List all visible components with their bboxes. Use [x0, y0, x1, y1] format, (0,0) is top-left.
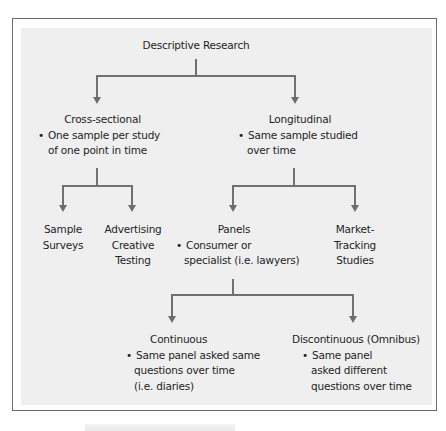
connector-to-continuous	[171, 294, 173, 316]
connector-to-sample-surveys	[62, 185, 64, 205]
node-descriptive-research: Descriptive Research	[136, 38, 256, 54]
connector-long-bar	[232, 185, 356, 187]
node-market-tracking-studies: Market- Tracking Studies	[325, 222, 385, 269]
node-longitudinal: Longitudinal Same sample studied over ti…	[238, 112, 368, 159]
connector-to-panels	[232, 185, 234, 205]
node-line: Market-	[325, 222, 385, 238]
node-bullet-cont: over time	[238, 143, 368, 159]
node-continuous: Continuous Same panel asked same questio…	[126, 332, 256, 394]
node-bullet-cont: of one point in time	[38, 143, 163, 159]
connector-to-discontinuous	[352, 294, 354, 316]
arrow-down-icon	[291, 97, 299, 104]
node-title: Discontinuous (Omnibus)	[292, 332, 432, 348]
node-bullet: One sample per study	[38, 128, 163, 144]
connector-root-bar	[96, 75, 296, 77]
arrow-down-icon	[93, 97, 101, 104]
connector-to-advertising	[131, 185, 133, 205]
node-bullet: Same panel	[292, 348, 432, 364]
node-bullet: Same panel asked same	[126, 348, 256, 364]
node-bullet-cont: asked different	[292, 363, 432, 379]
connector-to-longitudinal	[294, 75, 296, 97]
node-line: Surveys	[38, 238, 88, 254]
arrow-down-icon	[59, 205, 67, 212]
node-bullet: Same sample studied	[238, 128, 368, 144]
arrow-down-icon	[349, 316, 357, 323]
node-bullet-cont: (i.e. diaries)	[126, 379, 256, 395]
node-line: Studies	[325, 253, 385, 269]
node-title: Descriptive Research	[136, 38, 256, 54]
arrow-down-icon	[351, 205, 359, 212]
arrow-down-icon	[229, 205, 237, 212]
node-title: Cross-sectional	[38, 112, 163, 128]
node-advertising-creative-testing: Advertising Creative Testing	[100, 222, 166, 269]
connector-to-cross-sectional	[96, 75, 98, 97]
node-line: Sample	[38, 222, 88, 238]
node-panels: Panels Consumer or specialist (i.e. lawy…	[176, 222, 296, 269]
node-cross-sectional: Cross-sectional One sample per study of …	[38, 112, 163, 159]
node-title: Panels	[176, 222, 296, 238]
connector-panels-bar	[171, 294, 354, 296]
node-line: Advertising	[100, 222, 166, 238]
node-discontinuous: Discontinuous (Omnibus) Same panel asked…	[292, 332, 432, 394]
node-line: Tracking	[325, 238, 385, 254]
node-title: Continuous	[126, 332, 256, 348]
node-bullet-cont: specialist (i.e. lawyers)	[176, 253, 296, 269]
node-bullet-cont: questions over time	[292, 379, 432, 395]
connector-cross-bar	[62, 185, 133, 187]
node-sample-surveys: Sample Surveys	[38, 222, 88, 253]
arrow-down-icon	[168, 316, 176, 323]
decorative-band	[85, 424, 235, 431]
node-bullet: Consumer or	[176, 238, 296, 254]
node-line: Creative	[100, 238, 166, 254]
arrow-down-icon	[128, 205, 136, 212]
node-line: Testing	[100, 253, 166, 269]
node-title: Longitudinal	[238, 112, 368, 128]
node-bullet-cont: questions over time	[126, 363, 256, 379]
connector-to-market-tracking	[354, 185, 356, 205]
